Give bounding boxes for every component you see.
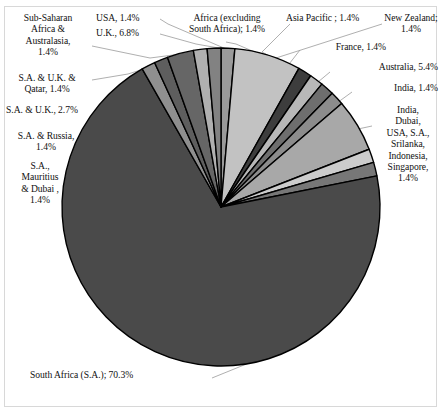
slice-label-india-multi: India, Dubai, USA, S.A., Srilanka, Indon… — [376, 104, 440, 184]
slice-label-sub-saharan: Sub-Saharan Africa & Australasia, 1.4% — [4, 12, 92, 58]
slice-label-new-zealand: New Zealand; 1.4% — [382, 12, 440, 35]
slice-label-india: India, 1.4% — [340, 82, 438, 93]
slice-label-africa-excl: Africa (excluding South Africa); 1.4% — [172, 12, 282, 35]
slice-label-sa-russia: S.A. & Russia, 1.4% — [4, 130, 88, 153]
slice-label-south-africa: South Africa (S.A.); 70.3% — [30, 369, 210, 380]
slice-label-france: France, 1.4% — [300, 41, 386, 52]
slice-label-usa: USA, 1.4% — [96, 12, 170, 23]
slice-label-sa-mauritius: S.A., Mauritius & Dubai , 1.4% — [6, 160, 74, 206]
pie-chart-page: Sub-Saharan Africa & Australasia, 1.4% U… — [0, 0, 444, 416]
slice-label-australia: Australia, 5.4% — [320, 61, 438, 72]
slice-label-sa-uk: S.A. & U.K., 2.7% — [6, 104, 106, 115]
pie-slices-group — [62, 48, 380, 366]
slice-label-sa-uk-qatar: S.A. & U.K. & Qatar, 1.4% — [4, 72, 90, 95]
slice-label-uk: U.K., 6.8% — [96, 27, 170, 38]
slice-label-asia-pacific: Asia Pacific ; 1.4% — [286, 12, 382, 23]
